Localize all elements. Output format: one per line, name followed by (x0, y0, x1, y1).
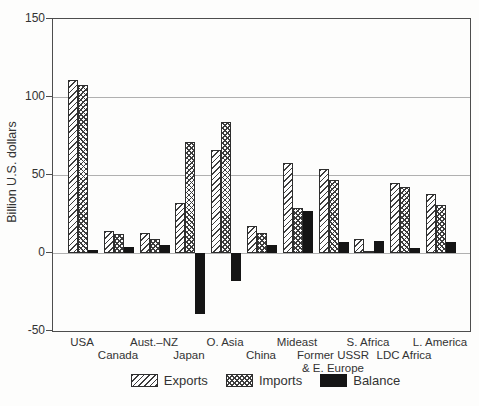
exports-bar (68, 80, 78, 253)
solid-swatch-icon (320, 374, 347, 387)
imports-bar (293, 208, 303, 253)
exports-bar (319, 169, 329, 253)
x-label-japan: Japan (173, 349, 204, 362)
imports-bar (185, 142, 195, 253)
bar-group-mideast (283, 19, 313, 331)
x-label-china: China (246, 349, 276, 362)
x-label-line: Canada (98, 349, 138, 362)
balance-bar (231, 253, 241, 281)
x-label-former-ussr-e-europe: Former USSR& E. Europe (297, 349, 369, 374)
exports-bar (426, 194, 436, 253)
diagonal-hatch-swatch-icon (131, 374, 158, 387)
legend-label: Exports (164, 373, 208, 388)
y-tick-label-50: 50 (0, 168, 45, 180)
bar-groups-layer (53, 19, 470, 331)
x-label-line: Aust.–NZ (130, 336, 178, 349)
exports-bar (390, 183, 400, 253)
y-tick-label--50: -50 (0, 324, 45, 336)
balance-bar (195, 253, 205, 314)
x-label-ldc-africa: LDC Africa (377, 349, 432, 362)
bar-group-china (247, 19, 277, 331)
balance-bar (410, 248, 420, 253)
x-label-line: Japan (173, 349, 204, 362)
balance-bar (446, 242, 456, 253)
imports-bar (150, 239, 160, 253)
bar-group-japan (175, 19, 205, 331)
balance-bar (374, 241, 384, 253)
imports-bar (257, 233, 267, 253)
bar-group-ldc-africa (390, 19, 420, 331)
exports-bar (140, 233, 150, 253)
exports-bar (104, 231, 114, 253)
legend-item-imports: Imports (226, 373, 302, 388)
bar-group-canada (104, 19, 134, 331)
x-label-l-america: L. America (413, 336, 467, 349)
x-label-line: O. Asia (206, 336, 243, 349)
x-label-line: LDC Africa (377, 349, 432, 362)
balance-bar (160, 245, 170, 253)
legend-item-balance: Balance (320, 373, 400, 388)
bar-group-former-ussr-e-europe (319, 19, 349, 331)
imports-bar (436, 205, 446, 253)
x-label-s-africa: S. Africa (347, 336, 390, 349)
crosshatch-swatch-icon (226, 374, 253, 387)
legend-item-exports: Exports (131, 373, 208, 388)
bar-group-l-america (426, 19, 456, 331)
x-label-line: L. America (413, 336, 467, 349)
bar-group-usa (68, 19, 98, 331)
x-label-aust-nz: Aust.–NZ (130, 336, 178, 349)
imports-bar (114, 234, 124, 253)
bar-group-o-asia (211, 19, 241, 331)
imports-bar (329, 180, 339, 253)
plot-area (52, 18, 471, 332)
y-tick-label-0: 0 (0, 246, 45, 258)
exports-bar (175, 203, 185, 253)
legend-label: Imports (259, 373, 302, 388)
balance-bar (88, 250, 98, 253)
trade-bar-chart-figure: Billion U.S. dollars 150100500-50 USACan… (0, 0, 479, 406)
imports-bar (78, 85, 88, 253)
exports-bar (283, 163, 293, 253)
x-label-line: Mideast (277, 336, 317, 349)
y-tick-label-150: 150 (0, 12, 45, 24)
x-label-canada: Canada (98, 349, 138, 362)
balance-bar (124, 247, 134, 253)
x-label-line: S. Africa (347, 336, 390, 349)
balance-bar (267, 245, 277, 253)
imports-bar (221, 122, 231, 253)
x-label-o-asia: O. Asia (206, 336, 243, 349)
x-label-mideast: Mideast (277, 336, 317, 349)
exports-bar (211, 150, 221, 253)
legend: ExportsImportsBalance (52, 373, 479, 388)
imports-bar (364, 251, 374, 253)
x-label-usa: USA (70, 336, 94, 349)
balance-bar (339, 242, 349, 253)
legend-label: Balance (353, 373, 400, 388)
x-label-line: China (246, 349, 276, 362)
x-label-line: USA (70, 336, 94, 349)
imports-bar (400, 187, 410, 253)
exports-bar (247, 226, 257, 253)
bar-group-s-africa (354, 19, 384, 331)
y-tick-label-100: 100 (0, 90, 45, 102)
bar-group-aust-nz (140, 19, 170, 331)
x-label-line: Former USSR (297, 349, 369, 362)
balance-bar (303, 211, 313, 253)
exports-bar (354, 239, 364, 253)
